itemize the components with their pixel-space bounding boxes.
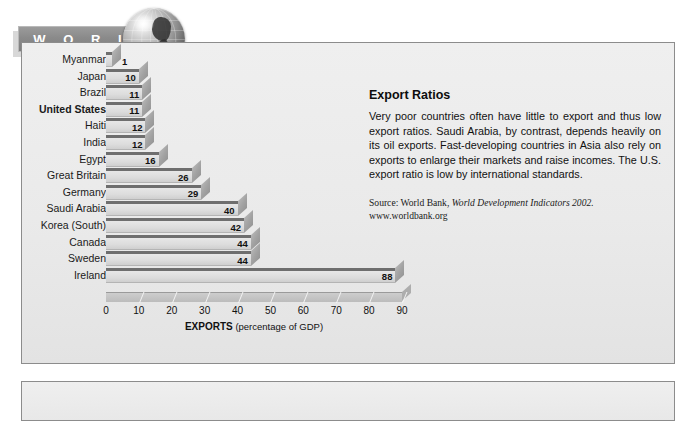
chart-row-label: Ireland — [0, 269, 106, 281]
x-axis-tick-label: 10 — [133, 305, 144, 316]
chart-bar-value: 11 — [129, 105, 139, 116]
chart-bar: 10 — [106, 69, 139, 84]
chart-bar-value: 42 — [231, 222, 242, 233]
chart-row: Egypt16 — [22, 151, 402, 168]
chart-row: Haiti12 — [22, 117, 402, 134]
chart-row: Great Britain26 — [22, 167, 402, 184]
world-view-panel: Myanmar1Japan10Brazil11United States11Ha… — [21, 42, 675, 364]
x-axis-tick-label: 50 — [265, 305, 276, 316]
x-axis-tick-label: 40 — [232, 305, 243, 316]
chart-row: Japan10 — [22, 68, 402, 85]
chart-bar: 44 — [106, 235, 251, 250]
chart-bar-value: 29 — [188, 188, 199, 199]
chart-row-label: Myanmar — [0, 53, 106, 65]
chart-bar-value: 44 — [237, 255, 248, 266]
chart-bar-value: 11 — [129, 89, 139, 100]
article-text-block: Export Ratios Very poor countries often … — [369, 88, 661, 222]
chart-row-label: India — [0, 136, 106, 148]
chart-row: India12 — [22, 134, 402, 151]
chart-bar: 88 — [106, 268, 395, 283]
chart-row-label: Japan — [0, 70, 106, 82]
x-axis-tick-label: 70 — [331, 305, 342, 316]
x-axis-tick-label: 0 — [103, 305, 109, 316]
chart-bar-value: 44 — [237, 238, 248, 249]
chart-bar: 42 — [106, 218, 244, 233]
chart-bar-value: 26 — [178, 172, 189, 183]
chart-bar: 11 — [106, 85, 142, 100]
chart-bar-value: 12 — [132, 122, 143, 133]
chart-row-label: Korea (South) — [0, 219, 106, 231]
source-title: World Development Indicators 2002. — [452, 197, 594, 208]
article-source-url: www.worldbank.org — [369, 209, 661, 222]
chart-bar-value: 88 — [382, 271, 393, 282]
chart-row-label: Great Britain — [0, 169, 106, 181]
x-axis-tick-label: 90 — [396, 305, 407, 316]
chart-row: Myanmar1 — [22, 51, 402, 68]
secondary-panel — [21, 381, 675, 421]
chart-bar-value: 10 — [125, 72, 136, 83]
chart-row: Brazil11 — [22, 84, 402, 101]
chart-row: Ireland88 — [22, 267, 402, 284]
x-axis-tick-label: 20 — [166, 305, 177, 316]
chart-bar-face — [106, 254, 251, 266]
chart-bar-value: 1 — [122, 56, 127, 67]
chart-row: United States11 — [22, 101, 402, 118]
chart-row: Sweden44 — [22, 250, 402, 267]
article-body: Very poor countries often have little to… — [369, 109, 661, 182]
chart-bar-face — [106, 271, 395, 283]
chart-bar: 12 — [106, 135, 145, 150]
chart-row: Korea (South)42 — [22, 217, 402, 234]
x-axis-tick-label: 80 — [364, 305, 375, 316]
chart-bar: 1 — [106, 52, 112, 67]
chart-row-label: Sweden — [0, 252, 106, 264]
chart-bar-value: 16 — [145, 155, 156, 166]
chart-bar: 40 — [106, 201, 238, 216]
source-prefix: Source: World Bank, — [369, 197, 452, 208]
chart-bar-face — [106, 238, 251, 250]
chart-bar-face — [106, 204, 238, 216]
x-axis-title-rest: (percentage of GDP) — [233, 321, 323, 332]
chart-bar-value: 12 — [132, 139, 143, 150]
chart-row: Saudi Arabia40 — [22, 200, 402, 217]
x-axis-base — [106, 292, 402, 302]
chart-row-label: United States — [0, 103, 106, 115]
chart-bar: 26 — [106, 168, 192, 183]
x-axis-title-strong: EXPORTS — [185, 321, 233, 332]
chart-bar: 44 — [106, 251, 251, 266]
chart-row-label: Canada — [0, 236, 106, 248]
chart-bar-face — [106, 55, 112, 67]
chart-row-label: Brazil — [0, 86, 106, 98]
chart-row-label: Egypt — [0, 153, 106, 165]
chart-row-label: Haiti — [0, 119, 106, 131]
chart-row-label: Germany — [0, 186, 106, 198]
chart-bar: 11 — [106, 102, 142, 117]
chart-bar-side — [112, 44, 121, 67]
article-heading: Export Ratios — [369, 88, 661, 102]
article-source: Source: World Bank, World Development In… — [369, 196, 661, 209]
x-axis-tick-label: 60 — [298, 305, 309, 316]
chart-bar: 16 — [106, 152, 159, 167]
chart-bar: 29 — [106, 185, 201, 200]
chart-row: Germany29 — [22, 184, 402, 201]
x-axis-tick-label: 30 — [199, 305, 210, 316]
x-axis-title: EXPORTS (percentage of GDP) — [106, 321, 402, 332]
chart-bar-value: 40 — [224, 205, 235, 216]
chart-row-label: Saudi Arabia — [0, 202, 106, 214]
export-ratios-chart: Myanmar1Japan10Brazil11United States11Ha… — [22, 43, 402, 365]
chart-bar-face — [106, 221, 244, 233]
chart-row: Canada44 — [22, 234, 402, 251]
chart-bar: 12 — [106, 118, 145, 133]
